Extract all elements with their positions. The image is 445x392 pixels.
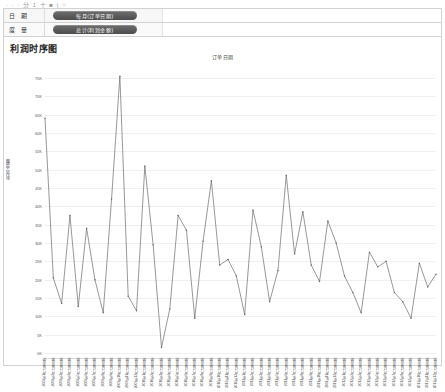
data-point[interactable] (136, 310, 138, 312)
x-tick-label: 2010年5月 订单日期 (176, 358, 179, 386)
data-point[interactable] (144, 165, 146, 167)
data-point[interactable] (152, 244, 154, 246)
data-point[interactable] (302, 211, 304, 213)
filter-rest-date (162, 9, 441, 22)
y-tick-label: 20K (18, 277, 42, 282)
data-point[interactable] (335, 242, 337, 244)
x-tick-label: 2009年7月 订单日期 (93, 358, 96, 386)
data-point[interactable] (310, 264, 312, 266)
x-tick-label: 2012年5月 订单日期 (376, 358, 379, 386)
x-tick-label: 2012年2月 订单日期 (351, 358, 354, 386)
data-point[interactable] (186, 229, 188, 231)
data-point[interactable] (194, 317, 196, 319)
data-point[interactable] (44, 118, 46, 120)
data-point[interactable] (261, 246, 263, 248)
x-tick-label: 2010年6月 订单日期 (185, 358, 188, 386)
data-point[interactable] (161, 347, 163, 349)
data-point[interactable] (277, 270, 279, 272)
y-tick-label: 70K (18, 94, 42, 99)
x-tick-label: 2011年8月 订单日期 (301, 358, 304, 386)
y-tick-label: 40K (18, 204, 42, 209)
data-point[interactable] (94, 279, 96, 281)
filter-pill-wrap-measure: 总计(利润金额) (44, 23, 162, 36)
x-tick-label: 2011年5月 订单日期 (276, 358, 279, 386)
data-point[interactable] (402, 301, 404, 303)
data-point[interactable] (236, 275, 238, 277)
filter-label-date: 日 期 (4, 11, 44, 20)
data-point[interactable] (202, 240, 204, 242)
x-tick-label: 2012年3月 订单日期 (359, 358, 362, 386)
data-point[interactable] (211, 180, 213, 182)
y-axis-label: 利润金额 (6, 158, 16, 180)
chart-title: 订单日期 (4, 53, 441, 60)
data-point[interactable] (102, 312, 104, 314)
data-point[interactable] (78, 306, 80, 308)
data-point[interactable] (352, 292, 354, 294)
filter-pill-measure[interactable]: 总计(利润金额) (53, 25, 137, 34)
y-tick-label: 75K (18, 76, 42, 81)
data-point[interactable] (369, 251, 371, 253)
data-point[interactable] (419, 262, 421, 264)
data-point[interactable] (394, 292, 396, 294)
x-tick-label: 2009年1月 订单日期 (43, 358, 46, 386)
data-point[interactable] (344, 275, 346, 277)
x-tick-label: 2009年10月 订单日期 (118, 358, 121, 388)
x-tick-label: 2009年4月 订单日期 (68, 358, 71, 386)
data-point[interactable] (294, 253, 296, 255)
data-point[interactable] (86, 228, 88, 230)
data-point[interactable] (227, 259, 229, 261)
data-point[interactable] (427, 286, 429, 288)
y-tick-label: 10K (18, 314, 42, 319)
x-tick-label: 2012年9月 订单日期 (409, 358, 412, 386)
data-point[interactable] (269, 301, 271, 303)
data-point[interactable] (385, 261, 387, 263)
data-point[interactable] (410, 317, 412, 319)
data-point[interactable] (327, 220, 329, 222)
filter-panel: 日 期 每月(订单日期) 度 量 总计(利润金额) (3, 8, 442, 37)
filter-pill-date[interactable]: 每月(订单日期) (53, 11, 137, 20)
x-axis-ticks: 2009年1月 订单日期2009年2月 订单日期2009年3月 订单日期2009… (18, 358, 438, 392)
y-tick-label: 50K (18, 167, 42, 172)
line-series (45, 63, 436, 358)
data-point[interactable] (244, 314, 246, 316)
data-point[interactable] (119, 75, 121, 77)
data-point[interactable] (53, 277, 55, 279)
x-tick-label: 2011年6月 订单日期 (285, 358, 288, 386)
top-stray-text: · · · 分 1 十 ■ ( ○ (6, 0, 67, 8)
data-point[interactable] (61, 303, 63, 305)
x-tick-label: 2009年9月 订单日期 (110, 358, 113, 386)
x-tick-label: 2012年10月 订单日期 (418, 358, 421, 388)
data-point[interactable] (360, 312, 362, 314)
chart-area: 订单日期 利润金额 75K70K65K60K55K50K45K40K35K30K… (4, 53, 441, 365)
data-point[interactable] (169, 308, 171, 310)
x-tick-label: 2011年2月 订单日期 (251, 358, 254, 386)
x-tick-label: 2012年1月 订单日期 (343, 358, 346, 386)
x-tick-label: 2011年4月 订单日期 (268, 358, 271, 386)
data-point[interactable] (177, 215, 179, 217)
data-point[interactable] (435, 273, 437, 275)
data-point[interactable] (286, 174, 288, 176)
data-point[interactable] (319, 281, 321, 283)
x-tick-label: 2012年4月 订单日期 (368, 358, 371, 386)
x-tick-label: 2012年6月 订单日期 (384, 358, 387, 386)
x-tick-label: 2009年3月 订单日期 (60, 358, 63, 386)
filter-rest-measure (162, 23, 441, 36)
data-point[interactable] (111, 198, 113, 200)
data-point[interactable] (127, 295, 129, 297)
y-tick-label: 55K (18, 149, 42, 154)
x-tick-label: 2011年1月 订单日期 (243, 358, 246, 386)
filter-row-measure: 度 量 总计(利润金额) (4, 23, 441, 37)
x-tick-label: 2012年12月 订单日期 (434, 358, 437, 388)
data-point[interactable] (69, 215, 71, 217)
x-tick-label: 2012年8月 订单日期 (401, 358, 404, 386)
x-tick-label: 2011年12月 订单日期 (334, 358, 337, 388)
data-point[interactable] (252, 209, 254, 211)
y-tick-label: 5K (18, 332, 42, 337)
data-point[interactable] (219, 264, 221, 266)
data-point[interactable] (377, 266, 379, 268)
x-tick-label: 2010年4月 订单日期 (168, 358, 171, 386)
plot-area: 75K70K65K60K55K50K45K40K35K30K25K20K15K1… (18, 63, 438, 358)
x-tick-label: 2009年2月 订单日期 (52, 358, 55, 386)
x-tick-label: 2010年8月 订单日期 (201, 358, 204, 386)
